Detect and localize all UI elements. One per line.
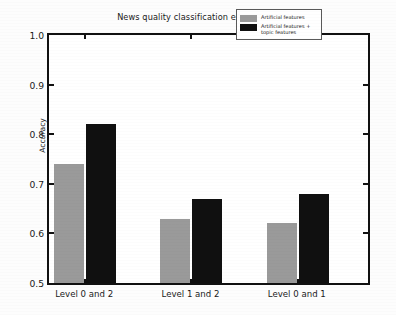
bar-series-a — [54, 164, 84, 283]
bars-layer — [49, 35, 368, 283]
y-tick-label: 0.9 — [29, 79, 44, 90]
x-tick-label: Level 0 and 1 — [268, 289, 326, 299]
legend-label-series-b: Artificial features + topic features — [261, 23, 311, 35]
legend-label-series-a-line1: Artificial features — [261, 14, 305, 20]
bar-series-b — [86, 124, 116, 283]
y-tick-label: 0.7 — [29, 178, 44, 189]
bar-series-a — [267, 223, 297, 283]
chart-legend: Artificial features Artificial features … — [236, 9, 322, 40]
legend-label-series-a: Artificial features — [261, 14, 305, 20]
y-tick-label: 0.6 — [29, 228, 44, 239]
chart-figure: News quality classification experiment A… — [0, 0, 396, 315]
legend-item-series-b: Artificial features + topic features — [240, 23, 318, 35]
y-tick-label: 0.5 — [29, 278, 44, 289]
bar-series-b — [299, 194, 329, 283]
plot-area: Accuracy 0.50.60.70.80.91.0 Level 0 and … — [47, 33, 370, 285]
bar-series-a — [160, 219, 190, 283]
legend-item-series-a: Artificial features — [240, 14, 318, 22]
legend-label-series-b-line2: topic features — [261, 29, 311, 35]
bar-series-b — [192, 199, 222, 283]
chart-title: News quality classification experiment — [0, 12, 396, 22]
legend-swatch-icon-series-b — [240, 24, 257, 31]
x-tick-label: Level 1 and 2 — [161, 289, 219, 299]
x-tick-label: Level 0 and 2 — [55, 289, 113, 299]
legend-swatch-icon-series-a — [240, 15, 257, 22]
y-tick-label: 1.0 — [29, 30, 44, 41]
y-tick-label: 0.8 — [29, 129, 44, 140]
